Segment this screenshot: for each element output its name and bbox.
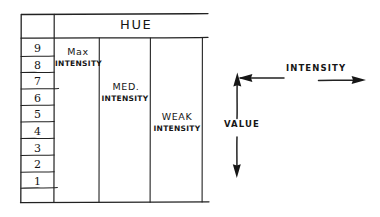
band-weak-intensity-subtitle: INTENSITY bbox=[152, 125, 202, 133]
band-med-intensity-title: MED. bbox=[103, 82, 149, 92]
intensity-axis-label: INTENSITY bbox=[286, 64, 346, 73]
band-weak-intensity-title: WEAK bbox=[153, 112, 201, 122]
value-tick-6: 6 bbox=[21, 92, 54, 105]
band-max-intensity-subtitle: INTENSITY bbox=[55, 60, 100, 68]
value-axis-label: VALUE bbox=[224, 120, 260, 129]
hue-header-label: HUE bbox=[120, 18, 152, 32]
value-tick-8: 8 bbox=[21, 59, 54, 72]
munsell-hue-value-intensity-diagram: HUE 9 8 7 6 5 4 3 2 1 Max INTENSITY MED.… bbox=[0, 0, 380, 217]
value-tick-5: 5 bbox=[21, 108, 54, 121]
intensity-axis-arrow bbox=[238, 74, 366, 84]
value-tick-1: 1 bbox=[21, 175, 54, 188]
column-dividers bbox=[54, 14, 203, 202]
value-tick-2: 2 bbox=[21, 158, 54, 171]
value-tick-3: 3 bbox=[21, 142, 54, 155]
band-max-intensity-title: Max bbox=[57, 47, 99, 57]
value-tick-4: 4 bbox=[21, 125, 54, 138]
band-med-intensity-subtitle: INTENSITY bbox=[101, 95, 149, 103]
diagram-linework bbox=[0, 0, 380, 217]
value-tick-7: 7 bbox=[21, 75, 54, 88]
value-tick-9: 9 bbox=[21, 42, 54, 55]
